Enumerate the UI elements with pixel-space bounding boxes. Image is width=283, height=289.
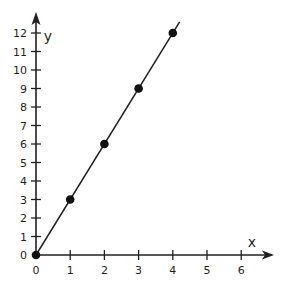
data-point [100,140,109,149]
series-line [36,22,180,255]
y-tick-label: 3 [20,194,27,207]
x-tick-label: 5 [204,264,211,277]
x-tick-label: 4 [169,264,176,277]
y-tick-label: 1 [20,231,27,244]
x-axis-label: x [248,234,256,250]
y-tick-label: 6 [20,138,27,151]
ticks: 01234560123456789101112 [13,27,245,277]
y-tick-label: 4 [20,175,27,188]
data-point [134,84,143,93]
y-tick-label: 0 [20,249,27,262]
y-tick-label: 12 [13,27,27,40]
x-tick-label: 3 [135,264,142,277]
y-tick-label: 8 [20,101,27,114]
y-tick-label: 5 [20,157,27,170]
y-axis-label: y [44,28,52,44]
y-tick-label: 11 [13,46,27,59]
y-tick-label: 2 [20,212,27,225]
data-point [169,29,178,38]
data-point [66,195,75,204]
y-tick-label: 7 [20,120,27,133]
x-tick-label: 1 [67,264,74,277]
line-chart: 01234560123456789101112 x y [0,0,283,289]
x-tick-label: 6 [238,264,245,277]
y-tick-label: 10 [13,64,27,77]
x-tick-label: 0 [33,264,40,277]
data-point [32,251,41,260]
y-tick-label: 9 [20,83,27,96]
series [32,22,180,259]
x-tick-label: 2 [101,264,108,277]
axes [32,12,275,260]
